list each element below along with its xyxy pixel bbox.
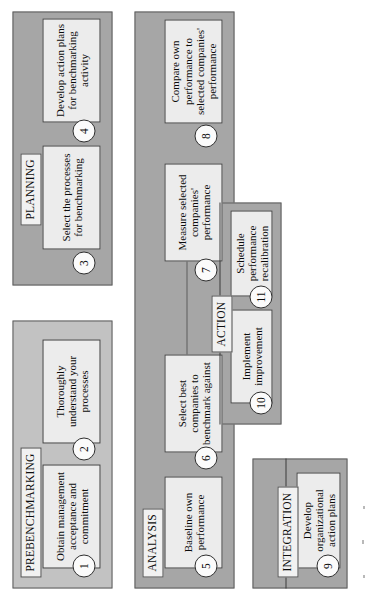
step-box-6: Select best companies to benchmark again… [164,354,222,452]
step-box-10: Implement improvement [230,309,272,403]
step-number-3: 3 [72,251,95,274]
phase-label-analysis: ANALYSIS [142,508,163,577]
step-text-2: Thoroughly understand your processes [53,344,90,438]
step-text-3: Select the processes for benchmarking [59,150,84,244]
step-number-2: 2 [72,437,95,460]
step-box-3: Select the processes for benchmarking [42,145,100,249]
step-box-5: Baseline own performance [164,476,222,568]
step-text-7: Measure selected companies' performance [175,168,212,256]
step-box-2: Thoroughly understand your processes [42,339,100,443]
step-box-9: Develop organizational action plans [296,472,340,568]
step-text-6: Select best companies to benchmark again… [175,359,212,447]
step-text-11: Schedule performance recalibration [233,215,270,291]
scan-artifact [362,540,364,544]
step-number-4: 4 [72,119,95,142]
step-box-4: Develop action plans for benchmarking ac… [42,18,100,122]
step-number-5: 5 [194,554,217,577]
scan-artifact [363,506,365,509]
phase-label-integration: INTEGRATION [277,486,298,577]
step-text-4: Develop action plans for benchmarking ac… [53,23,90,117]
step-box-7: Measure selected companies' performance [164,163,222,261]
phase-label-planning: PLANNING [20,153,41,225]
step-number-6: 6 [194,446,217,469]
step-number-1: 1 [72,554,95,577]
step-text-1: Obtain management acceptance and commitm… [53,469,90,563]
step-number-9: 9 [316,554,339,577]
step-box-1: Obtain management acceptance and commitm… [42,464,100,568]
step-text-9: Develop organizational action plans [300,477,337,563]
step-number-7: 7 [194,258,217,281]
step-text-10: Implement improvement [239,314,264,398]
step-number-8: 8 [194,124,217,147]
step-text-8: Compare own performance to selected comp… [168,24,217,118]
phase-label-prebenchmarking: PREBENCHMARKING [20,447,41,577]
benchmarking-process-diagram: PREBENCHMARKING Obtain management accept… [0,0,373,599]
step-text-5: Baseline own performance [181,481,206,563]
phase-label-action: ACTION [211,295,232,352]
step-number-11: 11 [249,285,272,308]
scan-artifact [363,575,365,578]
step-box-11: Schedule performance recalibration [230,210,272,296]
step-box-8: Compare own performance to selected comp… [164,19,222,123]
step-number-10: 10 [249,391,272,414]
